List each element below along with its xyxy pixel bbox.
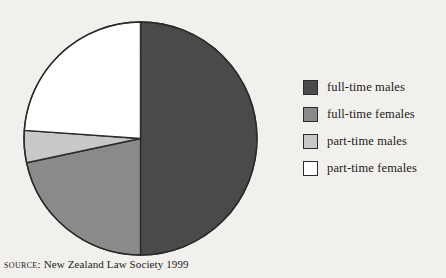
pie-slice-group xyxy=(24,22,257,255)
source-text: New Zealand Law Society 1999 xyxy=(41,258,189,270)
pie-chart-figure: full-time males full-time females part-t… xyxy=(0,0,446,278)
legend-swatch-icon xyxy=(303,80,318,95)
legend-swatch-icon xyxy=(303,107,318,122)
legend-item-full-time-males[interactable]: full-time males xyxy=(303,74,443,100)
source-label: Source: xyxy=(4,258,41,270)
pie-slice[interactable] xyxy=(24,22,140,139)
legend-item-label: full-time males xyxy=(327,81,405,94)
pie-chart-svg xyxy=(0,0,282,262)
pie-chart-area xyxy=(0,0,282,262)
pie-slice[interactable] xyxy=(141,22,257,255)
legend-swatch-icon xyxy=(303,161,318,176)
legend-item-part-time-males[interactable]: part-time males xyxy=(303,128,443,154)
source-note: Source: New Zealand Law Society 1999 xyxy=(4,259,189,270)
legend-item-full-time-females[interactable]: full-time females xyxy=(303,101,443,127)
legend-item-label: full-time females xyxy=(327,108,415,121)
legend-item-part-time-females[interactable]: part-time females xyxy=(303,155,443,181)
chart-legend: full-time males full-time females part-t… xyxy=(303,74,443,182)
legend-item-label: part-time females xyxy=(327,162,417,175)
legend-swatch-icon xyxy=(303,134,318,149)
legend-item-label: part-time males xyxy=(327,135,407,148)
